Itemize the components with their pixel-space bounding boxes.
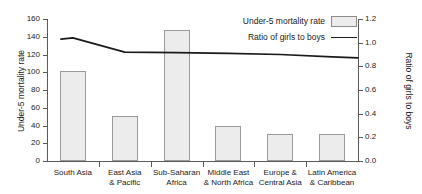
legend-item-mortality: Under-5 mortality rate (205, 13, 357, 29)
legend-label-mortality: Under-5 mortality rate (243, 16, 325, 26)
legend-label-ratio: Ratio of girls to boys (248, 32, 325, 42)
legend-item-ratio: Ratio of girls to boys (205, 29, 357, 45)
legend-swatch-bar-icon (331, 16, 357, 27)
legend-swatch-line-icon (331, 37, 357, 38)
chart-container: 020406080100120140160 0.00.20.40.60.81.0… (0, 0, 422, 194)
chart-legend: Under-5 mortality rate Ratio of girls to… (205, 13, 357, 45)
